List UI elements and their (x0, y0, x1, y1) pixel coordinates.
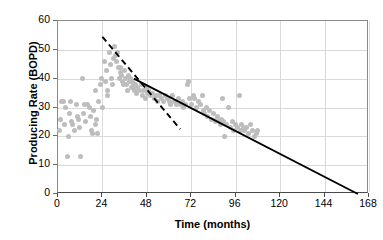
y-axis-tick-label: 50 (20, 42, 50, 54)
trend-lines-layer (58, 21, 369, 194)
y-axis-tick (53, 49, 57, 50)
y-axis-tick (53, 193, 57, 194)
y-axis-tick-label: 30 (20, 100, 50, 112)
y-axis-tick (53, 78, 57, 79)
x-axis-tick-label: 144 (304, 197, 344, 209)
solid-trend-line (134, 79, 358, 194)
y-axis-tick (53, 164, 57, 165)
x-axis-tick-label: 0 (37, 197, 77, 209)
y-axis-tick-label: 0 (20, 186, 50, 198)
x-axis-tick-label: 24 (81, 197, 121, 209)
x-axis-tick-label: 72 (170, 197, 210, 209)
x-axis-tick-label: 120 (259, 197, 299, 209)
y-axis-tick (53, 107, 57, 108)
y-axis-tick-label: 60 (20, 13, 50, 25)
y-axis-tick (53, 20, 57, 21)
chart-figure: Producing Rate (BOPD) Time (months) 0244… (0, 0, 383, 240)
x-axis-tick-label: 168 (348, 197, 383, 209)
x-axis-title: Time (months) (57, 218, 368, 230)
y-axis-tick-label: 10 (20, 157, 50, 169)
x-axis-tick-label: 96 (215, 197, 255, 209)
x-axis-tick-label: 48 (126, 197, 166, 209)
y-axis-tick-label: 20 (20, 128, 50, 140)
gridline-vertical (369, 21, 370, 192)
plot-area (57, 20, 368, 193)
y-axis-tick (53, 135, 57, 136)
y-axis-tick-label: 40 (20, 71, 50, 83)
